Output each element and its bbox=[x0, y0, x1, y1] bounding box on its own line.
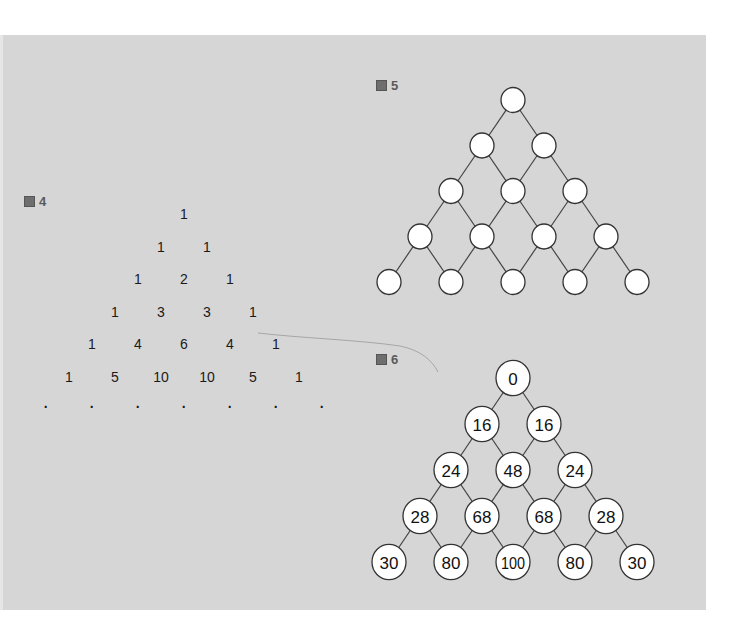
lattice-node bbox=[501, 88, 525, 113]
lattice-node bbox=[470, 133, 494, 158]
node-lattice-diagrams: 016162448242868682830801008030 bbox=[0, 0, 743, 635]
lattice-node bbox=[377, 270, 401, 295]
node-value: 68 bbox=[473, 508, 492, 527]
node-value: 24 bbox=[566, 462, 585, 481]
lattice-node bbox=[408, 224, 432, 249]
figure-6-lattice: 016162448242868682830801008030 bbox=[372, 360, 654, 579]
node-value: 0 bbox=[508, 370, 517, 389]
node-value: 30 bbox=[628, 554, 647, 573]
lattice-node bbox=[563, 179, 587, 204]
node-value: 30 bbox=[380, 554, 399, 573]
lattice-node bbox=[501, 270, 525, 295]
lattice-node bbox=[532, 224, 556, 249]
lattice-node bbox=[594, 224, 618, 249]
lattice-node bbox=[501, 179, 525, 204]
figure-5-lattice bbox=[377, 88, 649, 295]
node-value: 48 bbox=[504, 462, 523, 481]
node-value: 16 bbox=[535, 416, 554, 435]
node-value: 24 bbox=[442, 462, 461, 481]
lattice-node bbox=[532, 133, 556, 158]
node-value: 28 bbox=[411, 508, 430, 527]
node-value: 80 bbox=[442, 554, 461, 573]
lattice-node bbox=[563, 270, 587, 295]
node-value: 100 bbox=[501, 554, 525, 573]
node-value: 80 bbox=[566, 554, 585, 573]
pencil-scratch bbox=[258, 333, 438, 372]
node-value: 68 bbox=[535, 508, 554, 527]
lattice-node bbox=[439, 270, 463, 295]
lattice-node bbox=[470, 224, 494, 249]
node-value: 16 bbox=[473, 416, 492, 435]
node-value: 28 bbox=[597, 508, 616, 527]
lattice-node bbox=[439, 179, 463, 204]
lattice-node bbox=[625, 270, 649, 295]
